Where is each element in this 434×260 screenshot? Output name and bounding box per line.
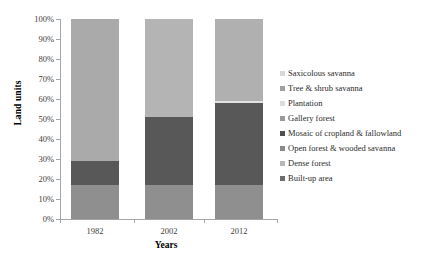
legend-swatch-icon	[280, 101, 285, 106]
legend-swatch-icon	[280, 146, 285, 151]
x-axis-tick	[277, 219, 278, 223]
bar-column[interactable]	[215, 19, 263, 219]
y-axis-tick-label: 70%	[10, 75, 54, 84]
legend-item-label: Saxicolous savanna	[288, 69, 355, 78]
bar-segment[interactable]	[215, 185, 263, 219]
legend-item[interactable]: Dense forest	[280, 156, 401, 171]
bar-segment[interactable]	[145, 117, 193, 185]
legend-item-label: Tree & shrub savanna	[288, 84, 363, 93]
legend-swatch-icon	[280, 176, 285, 181]
legend-item[interactable]: Gallery forest	[280, 111, 401, 126]
legend-swatch-icon	[280, 131, 285, 136]
y-axis-tick	[56, 99, 60, 100]
x-axis-title: Years	[55, 240, 277, 250]
y-axis-tick-label: 100%	[10, 15, 54, 24]
x-axis-tick-label: 1982	[65, 226, 125, 236]
stacked-bar-chart: Land units 0%10%20%30%40%50%60%70%80%90%…	[0, 0, 434, 260]
y-axis-tick-label: 0%	[10, 215, 54, 224]
legend-item-label: Built-up area	[288, 174, 333, 183]
bar-segment[interactable]	[71, 19, 119, 161]
legend-item[interactable]: Open forest & wooded savanna	[280, 141, 401, 156]
legend-item-label: Open forest & wooded savanna	[288, 144, 395, 153]
chart-legend: Saxicolous savannaTree & shrub savannaPl…	[280, 66, 401, 186]
y-axis-tick	[56, 59, 60, 60]
legend-item[interactable]: Plantation	[280, 96, 401, 111]
y-axis-tick-label: 30%	[10, 155, 54, 164]
legend-item-label: Dense forest	[288, 159, 331, 168]
bar-segment[interactable]	[215, 19, 263, 101]
legend-item[interactable]: Built-up area	[280, 171, 401, 186]
y-axis-tick	[56, 179, 60, 180]
legend-swatch-icon	[280, 116, 285, 121]
legend-item[interactable]: Mosaic of cropland & fallowland	[280, 126, 401, 141]
bar-segment[interactable]	[71, 185, 119, 219]
bar-segment[interactable]	[145, 19, 193, 117]
legend-swatch-icon	[280, 86, 285, 91]
x-axis-line	[60, 219, 277, 220]
y-axis-tick-label: 90%	[10, 35, 54, 44]
legend-item-label: Mosaic of cropland & fallowland	[288, 129, 401, 138]
y-axis-tick-label: 50%	[10, 115, 54, 124]
y-axis-tick	[56, 19, 60, 20]
legend-item-label: Gallery forest	[288, 114, 335, 123]
y-axis-line	[60, 19, 61, 219]
y-axis-tick-label: 80%	[10, 55, 54, 64]
y-axis-tick	[56, 199, 60, 200]
y-axis-tick	[56, 119, 60, 120]
x-axis-tick	[60, 219, 61, 223]
y-axis-tick	[56, 79, 60, 80]
legend-item-label: Plantation	[288, 99, 322, 108]
x-axis-tick	[204, 219, 205, 223]
legend-item[interactable]: Tree & shrub savanna	[280, 81, 401, 96]
y-axis-tick-label: 40%	[10, 135, 54, 144]
y-axis-tick	[56, 159, 60, 160]
bar-column[interactable]	[71, 19, 119, 219]
y-axis-tick	[56, 39, 60, 40]
y-axis-tick-label: 60%	[10, 95, 54, 104]
bar-segment[interactable]	[71, 161, 119, 185]
y-axis-tick-label: 20%	[10, 175, 54, 184]
legend-item[interactable]: Saxicolous savanna	[280, 66, 401, 81]
x-axis-tick-label: 2002	[139, 226, 199, 236]
x-axis-tick-label: 2012	[209, 226, 269, 236]
y-axis-tick-label: 10%	[10, 195, 54, 204]
y-axis-tick	[56, 139, 60, 140]
legend-swatch-icon	[280, 71, 285, 76]
legend-swatch-icon	[280, 161, 285, 166]
x-axis-tick	[134, 219, 135, 223]
bar-segment[interactable]	[215, 101, 263, 103]
bar-segment[interactable]	[145, 185, 193, 219]
bar-column[interactable]	[145, 19, 193, 219]
bar-segment[interactable]	[215, 103, 263, 185]
